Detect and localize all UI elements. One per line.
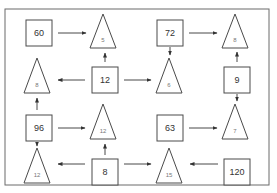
triangle-t12b: 12 <box>24 148 50 183</box>
triangle-t15: 15 <box>156 148 182 183</box>
triangle-t12a: 12 <box>90 104 116 139</box>
squares-layer: 607212996638120 <box>26 20 250 185</box>
triangle-value: 12 <box>100 128 107 134</box>
square-value: 12 <box>100 75 110 85</box>
square-sq60: 60 <box>26 20 52 46</box>
square-sq96: 96 <box>26 115 52 141</box>
triangle-t5: 5 <box>90 14 116 48</box>
square-sq12: 12 <box>92 67 118 93</box>
square-sq8: 8 <box>92 159 118 185</box>
square-value: 120 <box>229 167 244 177</box>
triangle-t7: 7 <box>222 104 248 139</box>
triangle-t8b: 8 <box>24 58 50 93</box>
square-sq63: 63 <box>157 115 183 141</box>
square-value: 96 <box>34 123 44 133</box>
square-value: 63 <box>165 123 175 133</box>
triangle-t8a: 8 <box>222 14 248 48</box>
triangle-value: 15 <box>166 172 173 178</box>
square-value: 60 <box>34 28 44 38</box>
arrows-layer <box>37 33 237 164</box>
square-value: 9 <box>234 75 239 85</box>
triangles-layer: 58861271215 <box>24 14 248 183</box>
square-value: 8 <box>102 167 107 177</box>
triangle-t6: 6 <box>156 58 182 93</box>
square-sq9: 9 <box>224 67 250 93</box>
number-puzzle-diagram: 58861271215 607212996638120 <box>0 0 277 193</box>
triangle-value: 12 <box>34 172 41 178</box>
square-value: 72 <box>165 28 175 38</box>
square-sq72: 72 <box>157 20 183 46</box>
square-sq120: 120 <box>224 159 250 185</box>
